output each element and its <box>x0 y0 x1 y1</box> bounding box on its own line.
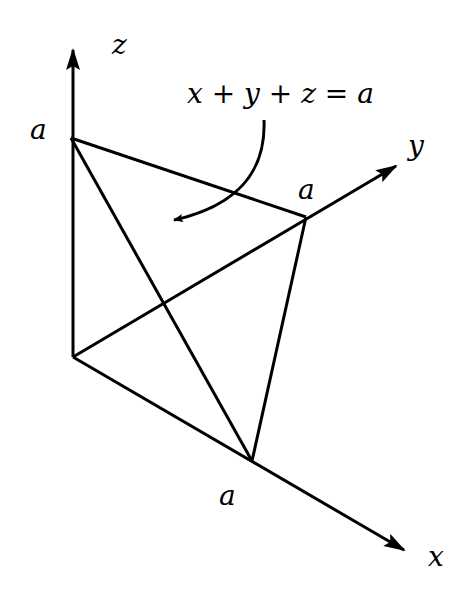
y-intercept-label: a <box>298 173 315 206</box>
tetrahedron-diagram: z y x a a a x + y + z = a <box>0 0 466 600</box>
x-intercept-label: a <box>219 479 236 512</box>
z-intercept-label: a <box>30 113 47 146</box>
y-axis-label: y <box>406 129 425 162</box>
curved-pointer-arrow <box>174 120 264 220</box>
x-axis-label: x <box>428 540 444 573</box>
x-axis <box>73 357 404 550</box>
edge-z-y <box>71 138 306 217</box>
edge-y-x <box>252 217 306 461</box>
plane-equation: x + y + z = a <box>187 77 374 110</box>
edge-z-x <box>71 138 252 461</box>
z-axis-label: z <box>111 28 127 61</box>
